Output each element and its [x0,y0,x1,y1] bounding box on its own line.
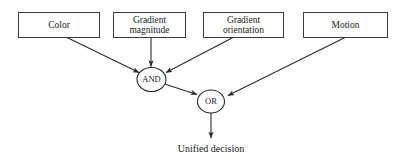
gate-node-and[interactable]: AND [137,68,166,92]
input-node-color[interactable]: Color [19,13,100,38]
edge-motion-to-or [228,38,345,96]
edge-gradient-orientation-to-and [166,38,233,73]
input-node-gradient-magnitude[interactable]: Gradient magnitude [114,13,186,38]
input-label-gradient-magnitude-line1: Gradient [133,15,167,25]
input-label-gradient-orientation-line2: orientation [223,25,264,35]
edge-group [67,38,345,139]
input-label-gradient-magnitude-line2: magnitude [129,25,169,35]
input-node-motion[interactable]: Motion [304,13,388,38]
edge-color-to-and [67,38,139,73]
input-node-gradient-orientation[interactable]: Gradient orientation [204,13,284,38]
output-label-unified-decision: Unified decision [178,143,244,154]
gate-label-and: AND [142,74,160,84]
diagram-canvas: Color Gradient magnitude Gradient orient… [0,0,408,165]
diagram-svg: Color Gradient magnitude Gradient orient… [0,0,408,165]
input-label-color: Color [48,20,70,30]
edge-and-to-or [163,84,197,95]
gate-label-or: OR [205,96,217,106]
input-label-motion: Motion [332,20,360,30]
gate-node-or[interactable]: OR [198,90,225,113]
input-label-gradient-orientation-line1: Gradient [227,15,261,25]
